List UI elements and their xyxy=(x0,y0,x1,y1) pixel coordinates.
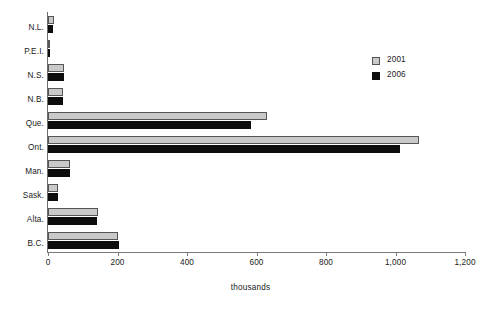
bar-nl-2006 xyxy=(48,25,53,33)
x-tick-mark-1200 xyxy=(465,252,466,256)
bar-bc-2001 xyxy=(48,232,118,240)
bar-que-2001 xyxy=(48,112,267,120)
x-axis-title: thousands xyxy=(0,283,501,292)
plot-area xyxy=(48,12,465,252)
bar-ont-2001 xyxy=(48,136,419,144)
legend-item-2001: 2001 xyxy=(372,53,406,68)
category-label-ont: Ont. xyxy=(28,144,44,152)
bar-man-2001 xyxy=(48,160,70,168)
legend-swatch-2006-icon xyxy=(372,72,380,80)
category-label-sask: Sask. xyxy=(23,192,44,200)
category-label-nl: N.L. xyxy=(28,24,44,32)
x-tick-mark-1000 xyxy=(396,252,397,256)
legend: 2001 2006 xyxy=(372,53,406,83)
x-tick-label-200: 200 xyxy=(110,259,124,267)
bar-sask-2006 xyxy=(48,193,58,201)
bar-nb-2006 xyxy=(48,97,63,105)
x-tick-label-800: 800 xyxy=(319,259,333,267)
x-tick-label-0: 0 xyxy=(46,259,51,267)
bar-sask-2001 xyxy=(48,184,58,192)
bar-chart: N.L. P.E.I. N.S. N.B. Que. Ont. Man. Sas… xyxy=(0,0,501,311)
legend-item-2006: 2006 xyxy=(372,68,406,83)
bar-bc-2006 xyxy=(48,241,119,249)
x-tick-mark-0 xyxy=(48,252,49,256)
category-label-bc: B.C. xyxy=(27,240,44,248)
category-label-man: Man. xyxy=(25,168,44,176)
bar-nb-2001 xyxy=(48,88,63,96)
bar-ns-2001 xyxy=(48,64,64,72)
x-tick-label-400: 400 xyxy=(180,259,194,267)
legend-label-2001: 2001 xyxy=(387,56,406,64)
category-label-que: Que. xyxy=(26,120,44,128)
x-tick-mark-400 xyxy=(187,252,188,256)
x-tick-mark-800 xyxy=(326,252,327,256)
category-axis: N.L. P.E.I. N.S. N.B. Que. Ont. Man. Sas… xyxy=(0,0,44,311)
bar-ns-2006 xyxy=(48,73,64,81)
bar-que-2006 xyxy=(48,121,251,129)
bar-nl-2001 xyxy=(48,16,54,24)
category-label-nb: N.B. xyxy=(27,96,44,104)
bar-alta-2001 xyxy=(48,208,98,216)
x-tick-label-1200: 1,200 xyxy=(454,259,475,267)
bar-man-2006 xyxy=(48,169,70,177)
x-tick-label-600: 600 xyxy=(249,259,263,267)
category-label-pei: P.E.I. xyxy=(24,48,44,56)
x-tick-mark-200 xyxy=(118,252,119,256)
bar-pei-2001 xyxy=(48,40,50,48)
bar-pei-2006 xyxy=(48,49,50,57)
legend-label-2006: 2006 xyxy=(387,71,406,79)
bar-ont-2006 xyxy=(48,145,400,153)
legend-swatch-2001-icon xyxy=(372,57,380,65)
bar-alta-2006 xyxy=(48,217,97,225)
category-label-ns: N.S. xyxy=(27,72,44,80)
category-label-alta: Alta. xyxy=(27,216,44,224)
x-tick-mark-600 xyxy=(257,252,258,256)
x-tick-label-1000: 1,000 xyxy=(385,259,406,267)
